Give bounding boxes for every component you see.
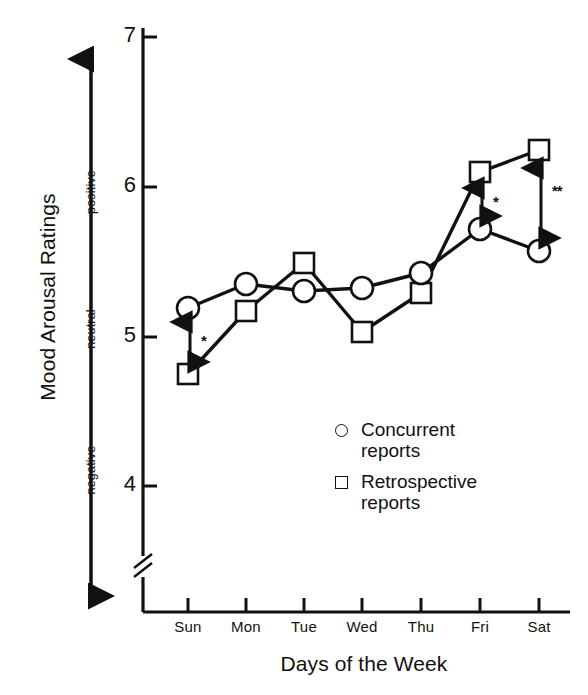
y-tick-label-4: 4	[106, 471, 136, 497]
concurrent-marker-sat	[528, 240, 550, 262]
legend-label-retrospective: Retrospective reports	[361, 471, 477, 514]
scale-word-neutral: neutral	[84, 295, 98, 363]
square-marker-icon	[335, 471, 361, 489]
chart-legend: Concurrent reports Retrospective reports	[335, 419, 575, 522]
concurrent-marker-mon	[235, 273, 257, 295]
x-tick-label-wed: Wed	[332, 618, 392, 635]
x-tick-label-tue: Tue	[274, 618, 334, 635]
concurrent-marker-tue	[293, 280, 315, 302]
legend-item-retrospective: Retrospective reports	[335, 471, 575, 514]
significance-label-fri: *	[493, 194, 498, 209]
x-tick-label-sat: Sat	[509, 618, 569, 635]
retrospective-marker-mon	[236, 301, 256, 321]
y-axis-title: Mood Arousal Ratings	[36, 167, 60, 427]
x-tick-label-sun: Sun	[158, 618, 218, 635]
concurrent-marker-sun	[177, 297, 199, 319]
x-tick-label-fri: Fri	[450, 618, 510, 635]
significance-label-sun: *	[201, 333, 206, 348]
y-axis	[134, 28, 157, 612]
x-axis	[143, 598, 570, 612]
x-tick-label-thu: Thu	[391, 618, 451, 635]
series-concurrent	[177, 218, 550, 319]
scale-word-positive: positive	[84, 155, 98, 229]
retrospective-marker-thu	[411, 283, 431, 303]
concurrent-marker-wed	[351, 277, 373, 299]
scale-word-negative: negative	[84, 432, 98, 508]
concurrent-marker-fri	[469, 218, 491, 240]
retrospective-marker-sun	[178, 364, 198, 384]
retrospective-marker-fri	[470, 162, 490, 182]
y-tick-label-6: 6	[106, 172, 136, 198]
circle-marker-icon	[335, 419, 361, 437]
retrospective-marker-wed	[352, 322, 372, 342]
y-tick-label-5: 5	[106, 322, 136, 348]
concurrent-marker-thu	[410, 262, 432, 284]
retrospective-marker-sat	[529, 140, 549, 160]
retrospective-marker-tue	[294, 253, 314, 273]
x-tick-label-mon: Mon	[216, 618, 276, 635]
x-axis-title: Days of the Week	[154, 652, 574, 676]
significance-label-sat: **	[552, 183, 562, 198]
legend-label-concurrent: Concurrent reports	[361, 419, 455, 462]
series-retrospective	[178, 140, 549, 384]
legend-item-concurrent: Concurrent reports	[335, 419, 575, 462]
chart-figure: Mood Arousal Ratings positive neutral ne…	[0, 0, 588, 695]
y-tick-label-7: 7	[106, 22, 136, 48]
